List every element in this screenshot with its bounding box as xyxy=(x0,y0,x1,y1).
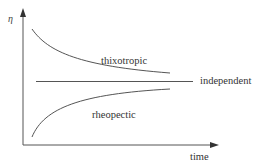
y-axis-label: η xyxy=(8,13,13,24)
x-axis-arrow-icon xyxy=(210,142,219,148)
thixotropic-curve xyxy=(32,29,170,73)
x-axis-label: time xyxy=(190,151,209,162)
y-axis-arrow-icon xyxy=(20,8,26,17)
thixotropic-label: thixotropic xyxy=(101,55,147,66)
rheopectic-label: rheopectic xyxy=(92,109,136,120)
viscosity-time-diagram: η time thixotropic independent rheopecti… xyxy=(0,0,265,167)
independent-label: independent xyxy=(200,75,251,86)
